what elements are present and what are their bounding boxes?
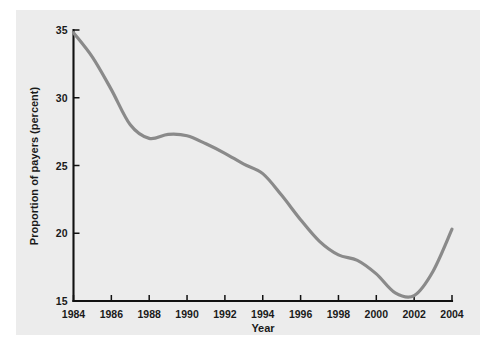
y-tick-label: 35	[56, 24, 68, 36]
x-tick-label: 2000	[365, 308, 389, 320]
y-tick-label: 25	[56, 160, 68, 172]
x-tick-label: 1994	[251, 308, 275, 320]
axis-tick-marks	[74, 30, 453, 301]
x-axis-title: Year	[251, 322, 275, 334]
x-tick-label: 1986	[100, 308, 124, 320]
x-tick-label: 1990	[175, 308, 199, 320]
x-tick-label: 2002	[402, 308, 426, 320]
y-tick-label: 15	[56, 295, 68, 307]
x-tick-label: 1996	[289, 308, 313, 320]
y-axis-title: Proportion of payers (percent)	[28, 87, 40, 246]
figure-container: 1520253035 19841986198819901992199419961…	[0, 0, 496, 354]
x-axis-tick-labels: 1984198619881990199219941996199820002002…	[62, 308, 464, 320]
x-tick-label: 1998	[327, 308, 351, 320]
y-tick-label: 20	[56, 227, 68, 239]
x-tick-label: 1984	[62, 308, 86, 320]
data-series-line	[74, 33, 453, 298]
y-tick-label: 30	[56, 92, 68, 104]
x-tick-label: 2004	[440, 308, 464, 320]
y-axis-tick-labels: 1520253035	[56, 24, 68, 307]
x-tick-label: 1992	[213, 308, 237, 320]
line-chart: 1520253035 19841986198819901992199419961…	[0, 0, 496, 354]
x-tick-label: 1988	[138, 308, 162, 320]
